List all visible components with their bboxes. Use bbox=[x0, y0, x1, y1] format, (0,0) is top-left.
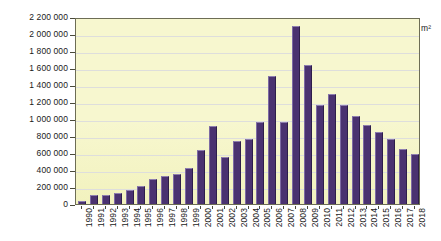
x-axis-tick-label: 1991 bbox=[97, 208, 106, 227]
x-axis-tick-mark bbox=[93, 206, 94, 209]
x-axis-tick-label: 2001 bbox=[216, 208, 225, 227]
y-axis-unit-label: m² bbox=[421, 24, 431, 33]
bar bbox=[185, 168, 193, 204]
x-axis-tick-label: 1995 bbox=[144, 208, 153, 227]
x-axis-tick-mark bbox=[414, 206, 415, 209]
x-axis-tick-label: 2011 bbox=[335, 208, 344, 227]
x-axis-tick-label: 1993 bbox=[121, 208, 130, 227]
x-axis-tick-label: 1998 bbox=[180, 208, 189, 227]
bar bbox=[280, 122, 288, 204]
bar bbox=[399, 149, 407, 204]
x-axis-tick-mark bbox=[188, 206, 189, 209]
y-axis-tick-label: 2 200 000 bbox=[29, 13, 68, 22]
bar bbox=[149, 179, 157, 204]
x-axis-tick-mark bbox=[117, 206, 118, 209]
y-axis-tick-label: 800 000 bbox=[37, 132, 68, 141]
bar bbox=[137, 186, 145, 204]
x-axis-tick-label: 1996 bbox=[156, 208, 165, 227]
bar bbox=[328, 94, 336, 204]
x-axis-tick-label: 1999 bbox=[192, 208, 201, 227]
bar bbox=[316, 105, 324, 204]
x-axis-tick-mark bbox=[129, 206, 130, 209]
bar bbox=[126, 190, 134, 204]
x-axis-tick-mark bbox=[307, 206, 308, 209]
bar bbox=[411, 154, 419, 204]
bar bbox=[375, 132, 383, 204]
x-axis-tick-label: 2002 bbox=[228, 208, 237, 227]
bar bbox=[387, 139, 395, 204]
x-axis-tick-mark bbox=[200, 206, 201, 209]
x-axis-tick-mark bbox=[378, 206, 379, 209]
x-axis-tick-mark bbox=[331, 206, 332, 209]
bar bbox=[197, 150, 205, 204]
bar bbox=[161, 176, 169, 204]
x-axis-tick-mark bbox=[259, 206, 260, 209]
x-axis-tick-label: 1990 bbox=[85, 208, 94, 227]
x-axis-tick-mark bbox=[81, 206, 82, 209]
x-axis-tick-mark bbox=[164, 206, 165, 209]
y-axis-tick-label: 600 000 bbox=[37, 149, 68, 158]
y-axis-tick-label: 1 200 000 bbox=[29, 98, 68, 107]
bar bbox=[90, 195, 98, 204]
x-axis-tick-label: 1992 bbox=[109, 208, 118, 227]
bar bbox=[221, 157, 229, 204]
x-axis: 1990199119921993199419951996199719981999… bbox=[75, 206, 420, 241]
bar bbox=[292, 26, 300, 205]
x-axis-tick-mark bbox=[212, 206, 213, 209]
x-axis-tick-mark bbox=[236, 206, 237, 209]
bar bbox=[114, 193, 122, 204]
x-axis-tick-mark bbox=[390, 206, 391, 209]
y-axis-tick-label: 200 000 bbox=[37, 183, 68, 192]
y-axis-tick-label: 1 400 000 bbox=[29, 81, 68, 90]
x-axis-tick-label: 2016 bbox=[394, 208, 403, 227]
x-axis-tick-mark bbox=[152, 206, 153, 209]
y-axis: 2 200 0002 000 0001 800 0001 600 0001 40… bbox=[0, 0, 75, 241]
x-axis-tick-label: 2007 bbox=[287, 208, 296, 227]
y-axis-tick-label: 1 600 000 bbox=[29, 64, 68, 73]
x-axis-tick-mark bbox=[283, 206, 284, 209]
x-axis-tick-mark bbox=[105, 206, 106, 209]
bar bbox=[352, 116, 360, 204]
x-axis-tick-label: 2003 bbox=[240, 208, 249, 227]
bar bbox=[268, 76, 276, 204]
bar-series bbox=[76, 19, 419, 204]
y-axis-tick-label: 1 000 000 bbox=[29, 115, 68, 124]
y-axis-tick-label: 2 000 000 bbox=[29, 30, 68, 39]
x-axis-tick-mark bbox=[224, 206, 225, 209]
x-axis-tick-label: 2017 bbox=[406, 208, 415, 227]
x-axis-tick-mark bbox=[355, 206, 356, 209]
x-axis-tick-label: 2010 bbox=[323, 208, 332, 227]
bar bbox=[363, 125, 371, 204]
x-axis-tick-label: 2005 bbox=[263, 208, 272, 227]
bar-chart: 2 200 0002 000 0001 800 0001 600 0001 40… bbox=[0, 0, 441, 241]
bar bbox=[78, 201, 86, 204]
plot-area bbox=[75, 18, 420, 205]
y-axis-tick-label: 0 bbox=[63, 200, 68, 209]
x-axis-tick-mark bbox=[176, 206, 177, 209]
x-axis-tick-label: 2004 bbox=[252, 208, 261, 227]
bar bbox=[245, 139, 253, 204]
x-axis-tick-label: 2008 bbox=[299, 208, 308, 227]
x-axis-tick-label: 2012 bbox=[347, 208, 356, 227]
x-axis-tick-label: 2018 bbox=[418, 208, 427, 227]
x-axis-tick-label: 2009 bbox=[311, 208, 320, 227]
x-axis-tick-label: 1997 bbox=[168, 208, 177, 227]
x-axis-tick-mark bbox=[140, 206, 141, 209]
x-axis-tick-label: 2013 bbox=[359, 208, 368, 227]
x-axis-tick-mark bbox=[319, 206, 320, 209]
x-axis-tick-mark bbox=[271, 206, 272, 209]
bar bbox=[233, 141, 241, 204]
bar bbox=[304, 65, 312, 204]
y-axis-tick-label: 1 800 000 bbox=[29, 47, 68, 56]
x-axis-tick-mark bbox=[248, 206, 249, 209]
x-axis-tick-label: 2000 bbox=[204, 208, 213, 227]
x-axis-tick-mark bbox=[295, 206, 296, 209]
x-axis-tick-mark bbox=[402, 206, 403, 209]
x-axis-tick-mark bbox=[366, 206, 367, 209]
bar bbox=[340, 105, 348, 204]
bar bbox=[256, 122, 264, 204]
bar bbox=[173, 174, 181, 204]
x-axis-tick-mark bbox=[343, 206, 344, 209]
bar bbox=[102, 195, 110, 204]
x-axis-tick-label: 2015 bbox=[382, 208, 391, 227]
